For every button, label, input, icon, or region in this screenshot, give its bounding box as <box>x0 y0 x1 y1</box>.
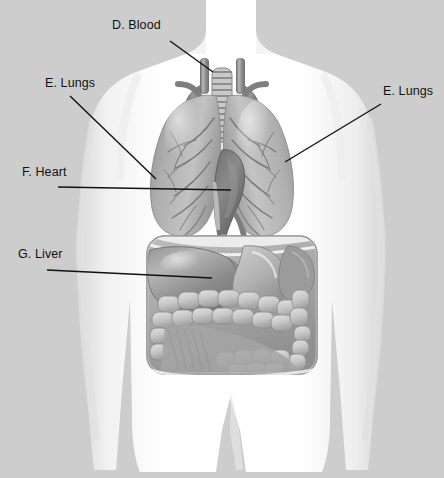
label-lungs-left: E. Lungs <box>45 77 95 90</box>
anatomy-illustration <box>0 0 444 478</box>
label-liver: G. Liver <box>18 248 63 261</box>
anatomy-figure: D. Blood E. Lungs E. Lungs F. Heart G. L… <box>0 0 444 478</box>
label-blood: D. Blood <box>112 19 161 32</box>
label-heart: F. Heart <box>22 166 67 179</box>
abdominal-cavity <box>147 236 317 378</box>
label-lungs-right: E. Lungs <box>383 85 433 98</box>
